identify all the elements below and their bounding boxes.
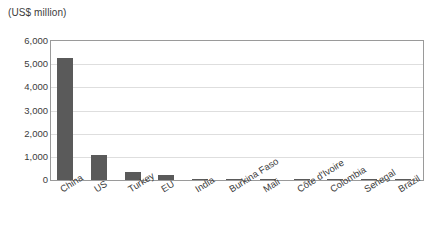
x-axis-category-labels: ChinaUSTurkeyEUIndiaBurkina FasoMaliCôte…	[51, 181, 423, 241]
y-axis-tick-label: 3,000	[4, 105, 48, 116]
bar	[91, 155, 107, 180]
y-axis-tick-label: 5,000	[4, 58, 48, 69]
bars-layer	[51, 41, 423, 180]
bar-chart: (US$ million) 01,0002,0003,0004,0005,000…	[0, 0, 436, 241]
y-axis-tick-label: 0	[4, 174, 48, 185]
bar	[57, 58, 73, 180]
y-axis-tick-label: 6,000	[4, 35, 48, 46]
x-axis-tick-label: US	[92, 178, 109, 194]
y-axis-unit-title: (US$ million)	[8, 7, 67, 18]
y-axis-tick-label: 1,000	[4, 151, 48, 162]
y-axis-tick-label: 4,000	[4, 81, 48, 92]
y-axis-tick-label: 2,000	[4, 128, 48, 139]
x-axis-tick-label: EU	[159, 178, 176, 194]
